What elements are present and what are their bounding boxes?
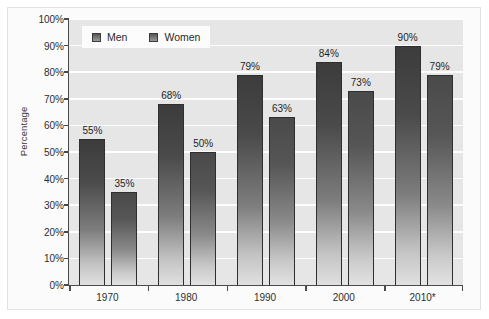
bar-women-2010star xyxy=(427,75,453,285)
bar-value-label: 79% xyxy=(240,61,260,72)
y-axis-tick-mark xyxy=(64,71,69,73)
x-axis-tick-mark xyxy=(384,285,386,291)
bar-men-1970 xyxy=(79,139,105,285)
legend-swatch-icon xyxy=(92,33,101,42)
bar-men-1980 xyxy=(158,104,184,285)
y-axis-tick-label: 50% xyxy=(24,147,64,158)
bar-value-label: 90% xyxy=(398,32,418,43)
bar-value-label: 84% xyxy=(319,48,339,59)
y-axis-tick-label: 20% xyxy=(24,226,64,237)
y-axis-tick-mark xyxy=(64,204,69,206)
bar-women-1990 xyxy=(269,117,295,285)
bar-women-2000 xyxy=(348,91,374,285)
x-axis-tick-mark xyxy=(462,285,464,291)
x-axis-tick-mark xyxy=(69,285,71,291)
bar-men-2000 xyxy=(316,62,342,285)
x-axis-tick-labels: 19701980199020002010* xyxy=(68,292,462,308)
plot-area: 55%35%68%50%79%63%84%73%90%79% xyxy=(68,19,463,286)
bar-value-label: 55% xyxy=(82,125,102,136)
y-axis-tick-label: 40% xyxy=(24,173,64,184)
y-axis-tick-mark xyxy=(64,258,69,260)
bar-value-label: 68% xyxy=(161,90,181,101)
y-axis-tick-mark xyxy=(64,98,69,100)
x-axis-tick-label: 1980 xyxy=(175,292,197,303)
x-axis-tick-label: 2010* xyxy=(410,292,436,303)
y-axis-tick-mark xyxy=(64,151,69,153)
y-axis-tick-mark xyxy=(64,231,69,233)
x-axis-tick-label: 1990 xyxy=(254,292,276,303)
bar-value-label: 73% xyxy=(351,77,371,88)
bar-value-label: 79% xyxy=(430,61,450,72)
bar-women-1980 xyxy=(190,152,216,285)
legend-entry-women[interactable]: Women xyxy=(149,31,200,43)
y-axis-tick-label: 10% xyxy=(24,253,64,264)
y-axis-tick-label: 90% xyxy=(24,40,64,51)
bar-value-label: 50% xyxy=(193,138,213,149)
bar-women-1970 xyxy=(111,192,137,285)
bar-men-2010star xyxy=(395,46,421,285)
y-axis-tick-label: 70% xyxy=(24,93,64,104)
chart-legend: MenWomen xyxy=(82,26,210,48)
legend-swatch-icon xyxy=(149,33,158,42)
y-axis-tick-label: 100% xyxy=(24,14,64,25)
y-axis-tick-mark xyxy=(64,18,69,20)
y-axis-tick-label: 30% xyxy=(24,200,64,211)
bar-value-label: 35% xyxy=(114,178,134,189)
legend-entry-men[interactable]: Men xyxy=(92,31,127,43)
y-axis-tick-label: 80% xyxy=(24,67,64,78)
x-axis-tick-label: 2000 xyxy=(333,292,355,303)
bar-men-1990 xyxy=(237,75,263,285)
gridline xyxy=(69,18,463,20)
x-axis-tick-mark xyxy=(227,285,229,291)
y-axis-tick-label: 0% xyxy=(24,280,64,291)
legend-label: Men xyxy=(107,31,127,43)
x-axis-tick-label: 1970 xyxy=(96,292,118,303)
x-axis-tick-mark xyxy=(148,285,150,291)
y-axis-tick-label: 60% xyxy=(24,120,64,131)
y-axis-tick-mark xyxy=(64,45,69,47)
legend-label: Women xyxy=(164,31,200,43)
x-axis-tick-mark xyxy=(305,285,307,291)
y-axis-tick-labels: 0%10%20%30%40%50%60%70%80%90%100% xyxy=(24,19,64,285)
y-axis-tick-mark xyxy=(64,125,69,127)
bar-value-label: 63% xyxy=(272,103,292,114)
bar-chart-figure: Percentage 0%10%20%30%40%50%60%70%80%90%… xyxy=(0,0,489,319)
y-axis-tick-mark xyxy=(64,178,69,180)
